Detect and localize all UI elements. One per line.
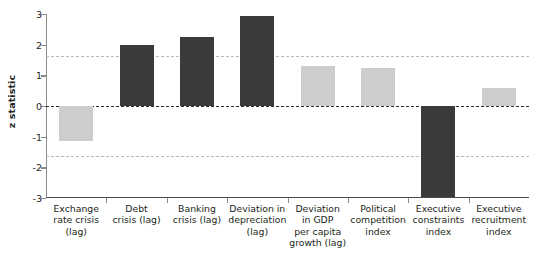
bar-slot (348, 14, 408, 198)
x-label-line: Debt (106, 203, 166, 214)
x-label-line: per capita (288, 226, 348, 237)
bar-slot (46, 14, 106, 198)
bar (421, 106, 455, 198)
x-label-line: index (469, 226, 529, 237)
bar (180, 37, 214, 106)
x-axis-labels: Exchangerate crisis(lag)Debtcrisis (lag)… (46, 203, 529, 261)
bar (482, 88, 516, 106)
y-tick-label: -2 (33, 162, 42, 173)
bar (59, 106, 93, 141)
x-label-line: crisis (lag) (167, 214, 227, 225)
x-axis-category-label: Exchangerate crisis(lag) (46, 203, 106, 237)
bar (240, 16, 274, 106)
y-tick-label: 1 (36, 70, 42, 81)
x-label-line: (lag) (227, 226, 287, 237)
x-label-line: rate crisis (46, 214, 106, 225)
y-tick-label: 0 (36, 101, 42, 112)
x-axis-category-label: Bankingcrisis (lag) (167, 203, 227, 226)
x-label-line: Banking (167, 203, 227, 214)
x-label-line: constraints (408, 214, 468, 225)
x-label-line: index (408, 226, 468, 237)
x-axis-category-label: Politicalcompetitionindex (348, 203, 408, 237)
x-axis-category-label: Deviation indepreciation(lag) (227, 203, 287, 237)
x-label-line: Political (348, 203, 408, 214)
y-tick-label: -3 (33, 193, 42, 204)
x-label-line: recruitment (469, 214, 529, 225)
x-axis-category-label: Deviationin GDPper capitagrowth (lag) (288, 203, 348, 249)
x-label-line: Deviation (288, 203, 348, 214)
x-label-line: depreciation (227, 214, 287, 225)
x-label-line: in GDP (288, 214, 348, 225)
x-axis-category-label: Debtcrisis (lag) (106, 203, 166, 226)
bar-slot (288, 14, 348, 198)
y-tick-label: 2 (36, 39, 42, 50)
x-label-line: index (348, 226, 408, 237)
bar-slot (469, 14, 529, 198)
x-label-line: crisis (lag) (106, 214, 166, 225)
x-label-line: Exchange (46, 203, 106, 214)
x-label-line: Executive (408, 203, 468, 214)
x-label-line: (lag) (46, 226, 106, 237)
bar (301, 66, 335, 106)
bar-series (46, 14, 529, 198)
bar-slot (227, 14, 287, 198)
plot-area: 3210-1-2-3 (46, 14, 529, 198)
bar (120, 45, 154, 106)
bar-slot (408, 14, 468, 198)
x-axis-category-label: Executiverecruitmentindex (469, 203, 529, 237)
x-axis-category-label: Executiveconstraintsindex (408, 203, 468, 237)
x-label-line: competition (348, 214, 408, 225)
bar-slot (167, 14, 227, 198)
x-label-line: growth (lag) (288, 237, 348, 248)
x-label-line: Deviation in (227, 203, 287, 214)
y-tick-label: 3 (36, 9, 42, 20)
z-statistic-bar-chart: z statistic 3210-1-2-3 Exchangerate cris… (0, 0, 537, 264)
bar-slot (106, 14, 166, 198)
x-label-line: Executive (469, 203, 529, 214)
y-tick-label: -1 (33, 131, 42, 142)
bar (361, 68, 395, 106)
y-axis-label: z statistic (6, 62, 17, 142)
